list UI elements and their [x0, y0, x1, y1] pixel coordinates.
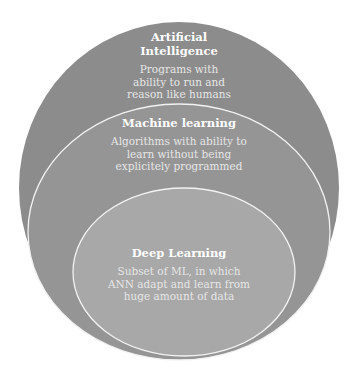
ml-description: Algorithms with ability to learn without… — [84, 135, 274, 173]
dl-description: Subset of ML, in which ANN adapt and lea… — [84, 265, 274, 303]
dl-label: Deep Learning Subset of ML, in which ANN… — [84, 246, 274, 303]
ai-description: Programs with ability to run and reason … — [104, 63, 254, 101]
ai-title-line-2: Intelligence — [104, 44, 254, 58]
ml-title: Machine learning — [84, 116, 274, 130]
ml-title-line-1: Machine learning — [84, 116, 274, 130]
dl-title-line-1: Deep Learning — [84, 246, 274, 260]
dl-desc-line-3: huge amount of data — [84, 290, 274, 303]
dl-desc-line-1: Subset of ML, in which — [84, 265, 274, 278]
ml-label: Machine learning Algorithms with ability… — [84, 116, 274, 173]
ai-desc-line-1: Programs with — [104, 63, 254, 76]
dl-desc-line-2: ANN adapt and learn from — [84, 278, 274, 291]
ai-title: Artificial Intelligence — [104, 30, 254, 58]
ai-desc-line-3: reason like humans — [104, 88, 254, 101]
ai-label: Artificial Intelligence Programs with ab… — [104, 30, 254, 101]
dl-title: Deep Learning — [84, 246, 274, 260]
ml-desc-line-2: learn without being — [84, 148, 274, 161]
ai-title-line-1: Artificial — [104, 30, 254, 44]
ml-desc-line-3: explicitely programmed — [84, 160, 274, 173]
ml-desc-line-1: Algorithms with ability to — [84, 135, 274, 148]
ai-desc-line-2: ability to run and — [104, 76, 254, 89]
